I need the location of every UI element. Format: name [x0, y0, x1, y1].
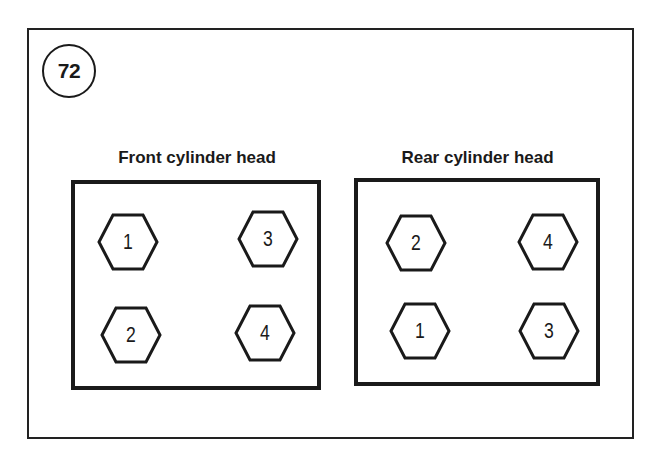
bolt-hexagon: 4	[234, 304, 296, 362]
bolt-label: 4	[523, 213, 573, 271]
figure-number: 72	[58, 59, 80, 83]
bolt-label: 4	[240, 304, 290, 362]
bolt-hexagon: 1	[97, 213, 159, 271]
bolt-hexagon: 3	[518, 302, 580, 360]
rear-cylinder-head: 2 4 1 3	[354, 178, 600, 386]
bolt-hexagon: 2	[385, 214, 447, 272]
rear-head-title: Rear cylinder head	[355, 148, 600, 168]
bolt-label: 3	[243, 210, 293, 268]
front-cylinder-head: 1 3 2 4	[71, 180, 321, 390]
bolt-hexagon: 2	[100, 306, 162, 364]
bolt-label: 2	[106, 306, 156, 364]
bolt-label: 3	[524, 302, 574, 360]
bolt-label: 1	[103, 213, 153, 271]
bolt-label: 1	[395, 302, 445, 360]
bolt-hexagon: 1	[389, 302, 451, 360]
front-head-title: Front cylinder head	[72, 148, 322, 168]
bolt-hexagon: 3	[237, 210, 299, 268]
bolt-label: 2	[391, 214, 441, 272]
bolt-hexagon: 4	[517, 213, 579, 271]
figure-number-badge: 72	[42, 44, 96, 98]
